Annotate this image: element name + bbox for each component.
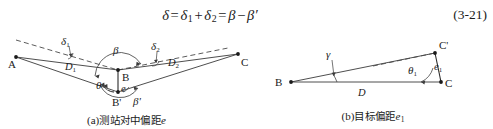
arrowhead-beta-left [95,74,100,78]
label-distance-D: D [357,87,366,98]
label-distance-D1: D1 [64,61,77,74]
equation-term-delta2: δ2 [204,7,216,23]
figure-a-caption-text: 测站对中偏距 [99,114,161,126]
figure-b-caption-var-sub: 1 [400,115,404,124]
equation-term-beta-prime: β′ [247,7,258,23]
label-point-A: A [8,58,16,70]
label-angle-gamma: γ [326,48,331,60]
figure-a-caption: (a)测站对中偏距e [0,113,253,127]
polyline-A-B-C [16,54,238,70]
label-distance-D2: D2 [167,57,180,70]
point-Bprime-dot [116,90,120,94]
figure-a: A B B' C D1 D2 δ1 δ2 β β' θ e (a)测站对中偏距e [0,26,253,129]
point-C-dot [236,52,240,56]
label-point-C-prime: C' [439,39,448,51]
figure-a-caption-index: (a) [87,114,99,126]
point-Cprime-dot [433,51,437,55]
equation-number: (3-21) [453,2,487,28]
label-angle-theta1: θ1 [408,64,417,78]
arrowhead-beta-prime-right [134,86,139,90]
figures-container: A B B' C D1 D2 δ1 δ2 β β' θ e (a)测站对中偏距e [0,26,493,129]
equation-term-delta1: δ1 [181,7,193,23]
point-C-dot [439,80,443,84]
equation-term-beta: β [228,7,235,23]
label-angle-delta2: δ2 [151,40,160,54]
figure-b: B C C' D γ θ1 e1 (b)目标偏距e1 [253,26,493,129]
figure-a-caption-var: e [161,114,166,126]
equation-row: δ=δ1+δ2=β−β′ (3-21) [0,2,493,28]
label-point-C: C [445,77,452,89]
point-B-dot [116,68,120,72]
label-point-B-prime: B' [112,96,121,108]
label-point-B: B [122,71,129,83]
label-angle-beta-prime: β' [132,95,141,107]
label-angle-delta1: δ1 [61,35,70,49]
figure-b-caption-text: 目标偏距 [354,110,395,122]
label-angle-beta: β [112,44,119,56]
equation-plus: + [193,7,204,23]
label-point-B: B [275,76,282,88]
figure-b-caption: (b)目标偏距e1 [253,109,493,127]
label-offset-e: e [121,83,126,94]
arc-theta1 [421,68,433,82]
label-angle-theta: θ [96,79,102,91]
arrowhead-gamma [332,72,336,76]
point-B-dot [289,80,293,84]
figure-b-caption-index: (b) [341,110,354,122]
equation-equals-1: = [169,7,180,23]
equation-minus: − [236,7,247,23]
delta2-subscript: 2 [211,13,217,24]
label-offset-e1: e1 [434,61,443,74]
equation-equals-2: = [217,7,228,23]
beta-prime-mark: ′ [254,7,257,23]
label-point-C: C [241,56,248,68]
